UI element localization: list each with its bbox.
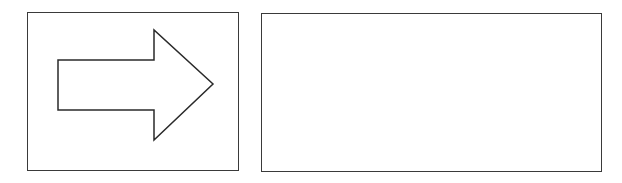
arrow-shape [58,30,213,140]
right-arrow-icon [0,0,622,183]
